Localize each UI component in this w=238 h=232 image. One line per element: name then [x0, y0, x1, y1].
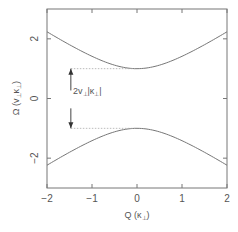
gap-annotation: 2v⊥|κ⊥|	[73, 86, 102, 97]
plot-annotations	[68, 69, 137, 129]
y-tick-label: 0	[29, 95, 40, 101]
x-tick-label: 0	[134, 193, 140, 204]
x-tick-label: 2	[224, 193, 230, 204]
plot-frame	[47, 9, 227, 188]
x-tick-label: −2	[41, 193, 53, 204]
plot-curves	[47, 32, 227, 165]
x-tick-label: 1	[179, 193, 185, 204]
lower-branch-curve	[47, 128, 227, 165]
y-axis-ticks: −202	[29, 36, 227, 164]
x-axis-ticks: −2−1012	[41, 9, 230, 204]
arrow-down-icon	[68, 122, 73, 128]
y-axis-label: Ω (v⊥κ⊥)	[11, 81, 22, 115]
x-tick-label: −1	[86, 193, 98, 204]
upper-branch-curve	[47, 32, 227, 69]
y-tick-label: −2	[29, 152, 40, 164]
x-axis-label: Q (κ⊥)	[124, 210, 149, 221]
dispersion-chart: −2−1012 −202 Q (κ⊥) Ω (v⊥κ⊥) 2v⊥|κ⊥|	[0, 0, 238, 232]
arrow-up-icon	[68, 69, 73, 75]
y-tick-label: 2	[29, 36, 40, 42]
